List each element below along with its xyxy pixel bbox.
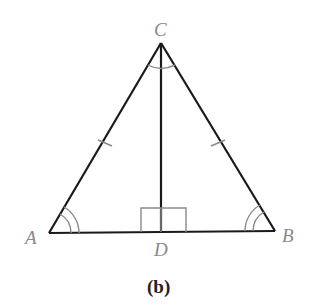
label-c: C: [154, 19, 167, 40]
angle-arc-b-inner: [253, 212, 264, 231]
figure-caption: (b): [147, 276, 170, 298]
angle-arc-a-inner: [60, 214, 71, 233]
isosceles-triangle-diagram: C A B D (b): [0, 0, 310, 308]
label-a: A: [23, 227, 37, 248]
label-d: D: [153, 239, 168, 260]
side-ac: [49, 43, 161, 233]
side-bc: [161, 43, 275, 231]
label-b: B: [282, 225, 294, 246]
right-angle-mark: [141, 208, 186, 232]
